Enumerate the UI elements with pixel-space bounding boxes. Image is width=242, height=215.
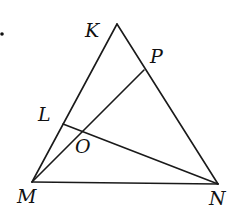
label-m: M: [16, 185, 37, 207]
triangle-diagram: K P L O M N: [0, 0, 242, 215]
segment-mn: [32, 182, 218, 184]
bullet-dot: [0, 32, 4, 36]
label-n: N: [208, 187, 227, 209]
label-k: K: [84, 19, 101, 41]
segment-mp: [32, 70, 144, 182]
label-p: P: [149, 45, 164, 67]
segment-kn: [117, 24, 218, 184]
label-l: L: [37, 103, 51, 125]
label-o: O: [75, 135, 91, 157]
